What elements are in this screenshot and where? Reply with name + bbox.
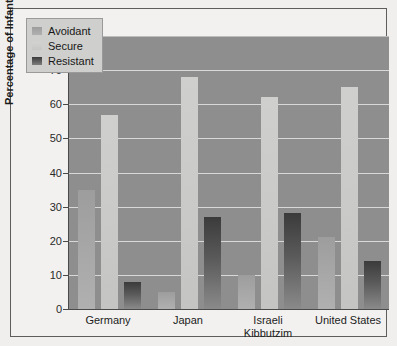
bar-resistant-japan (204, 217, 221, 309)
bar-resistant-germany (124, 282, 141, 309)
bar-resistant-united-states (364, 261, 381, 309)
bar-secure-japan (181, 77, 198, 309)
y-axis-tick-label: 10 (22, 270, 62, 281)
legend-swatch-icon (32, 57, 42, 65)
legend-item-label: Resistant (48, 55, 94, 67)
y-axis-tick-label: 60 (22, 99, 62, 110)
y-axis-tick-label: 30 (22, 202, 62, 213)
bar-avoidant-israeli-kibbutzim (238, 275, 255, 309)
y-axis-tick-label: 50 (22, 133, 62, 144)
plot-area (68, 36, 389, 310)
bar-resistant-israeli-kibbutzim (284, 213, 301, 309)
legend-item-label: Secure (48, 40, 83, 52)
y-axis-tick-label: 20 (22, 236, 62, 247)
bar-avoidant-germany (78, 190, 95, 309)
chart-frame: Percentage of Infants 01020304050607080 … (10, 8, 387, 337)
bar-avoidant-japan (158, 292, 175, 309)
bar-secure-germany (101, 115, 118, 310)
chart-figure: Percentage of Infants 01020304050607080 … (0, 0, 397, 346)
x-axis-label-line: United States (293, 314, 397, 327)
legend-swatch-icon (32, 27, 42, 35)
legend-item-label: Avoidant (48, 25, 91, 37)
bar-secure-united-states (341, 87, 358, 309)
y-axis-tick-label: 40 (22, 168, 62, 179)
legend-item-secure: Secure (32, 38, 94, 53)
legend-item-resistant: Resistant (32, 53, 94, 68)
legend-item-avoidant: Avoidant (32, 23, 94, 38)
gridline (69, 36, 389, 37)
chart-legend: AvoidantSecureResistant (26, 18, 103, 73)
y-axis-title: Percentage of Infants (3, 0, 15, 105)
bar-avoidant-united-states (318, 237, 335, 309)
x-axis-label-line: Kibbutzim (213, 327, 323, 340)
legend-swatch-icon (32, 42, 42, 50)
gridline (69, 70, 389, 71)
bar-secure-israeli-kibbutzim (261, 97, 278, 309)
x-axis-category-label: United States (293, 314, 397, 327)
